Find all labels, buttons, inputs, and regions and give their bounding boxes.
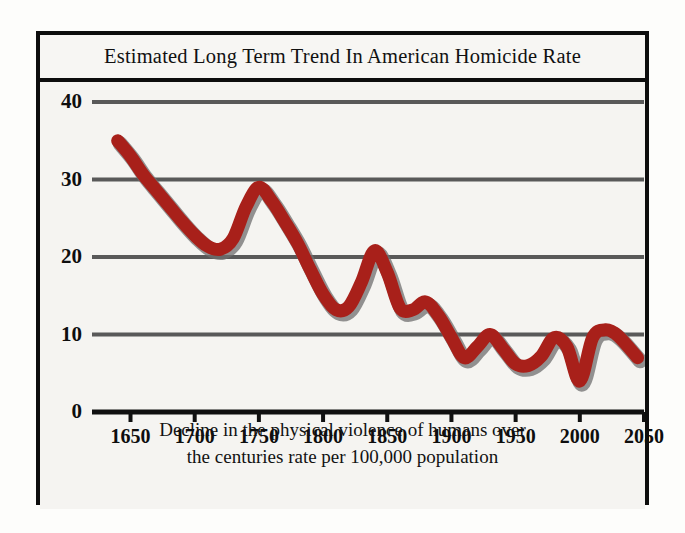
- y-tick-label-30: 30: [42, 167, 82, 192]
- chart-caption: Decline in the physical violence of huma…: [40, 416, 645, 470]
- y-tick-label-10: 10: [42, 322, 82, 347]
- chart-title-band: Estimated Long Term Trend In American Ho…: [40, 35, 645, 82]
- caption-line-2: the centuries rate per 100,000 populatio…: [40, 443, 645, 470]
- plot-area: 010203040 165017001750180018501900195020…: [40, 82, 645, 509]
- figure-page: Estimated Long Term Trend In American Ho…: [0, 0, 685, 533]
- data-series-group: [118, 141, 640, 384]
- y-tick-label-20: 20: [42, 244, 82, 269]
- data-line-homicide-rate: [118, 141, 638, 381]
- caption-line-1: Decline in the physical violence of huma…: [40, 416, 645, 443]
- chart-frame: Estimated Long Term Trend In American Ho…: [36, 31, 649, 505]
- page-title: Estimated Long Term Trend In American Ho…: [104, 45, 581, 68]
- y-tick-label-40: 40: [42, 89, 82, 114]
